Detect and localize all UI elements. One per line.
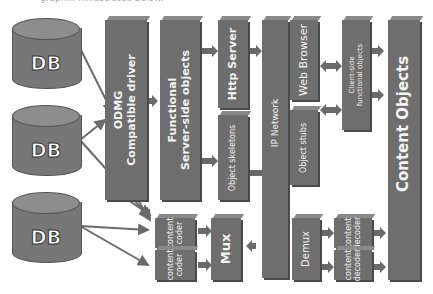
content-coder-block-2: content coder — [155, 250, 195, 280]
content-objects-label: Content Objects — [395, 56, 412, 192]
client-side-objects-label: Client-side functional objects — [348, 44, 364, 106]
odmg-driver-block: ODMG Compatible driver — [105, 20, 147, 200]
object-stubs-block: Object stubs — [290, 110, 318, 185]
content-decoder-label: content decoder — [344, 249, 362, 282]
database-label: DB — [12, 139, 80, 161]
database-top — [12, 192, 80, 214]
object-skeletons-block: Object skeletons — [218, 115, 248, 200]
client-side-objects-block: Client-side functional objects — [342, 20, 370, 130]
content-decoder-block-2: content decoder — [334, 250, 372, 280]
database-label: DB — [12, 226, 80, 248]
mux-block: Mux — [211, 218, 241, 280]
demux-block: Demux — [292, 218, 320, 280]
demux-label: Demux — [300, 231, 312, 267]
content-decoder-label: content decoder — [344, 217, 362, 250]
content-coder-label: content coder — [166, 250, 184, 281]
database-label: DB — [12, 52, 80, 74]
content-decoder-block-1: content decoder — [334, 218, 372, 248]
odmg-driver-label: ODMG Compatible driver — [113, 54, 138, 165]
http-server-block: Http Server — [218, 20, 248, 108]
http-server-label: Http Server — [227, 28, 240, 100]
web-browser-block: Web Browser — [290, 20, 318, 100]
content-coder-label: content coder — [166, 218, 184, 249]
functional-server-objects-label: Functional Server-side objects — [167, 50, 192, 170]
mux-label: Mux — [219, 234, 234, 265]
functional-server-objects-block: Functional Server-side objects — [160, 20, 200, 200]
database-top — [12, 18, 80, 40]
object-stubs-label: Object stubs — [299, 122, 308, 172]
database-top — [12, 105, 80, 127]
ip-network-label: IP Network — [270, 99, 280, 148]
ip-network-block: IP Network — [262, 20, 288, 278]
content-coder-block-1: content coder — [155, 218, 195, 248]
object-skeletons-label: Object skeletons — [228, 124, 237, 190]
web-browser-label: Web Browser — [298, 24, 311, 96]
content-objects-block: Content Objects — [388, 20, 420, 280]
